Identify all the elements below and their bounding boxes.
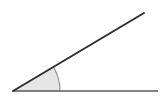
angle-diagram-figure: Acute angle formed by two rays [0, 0, 165, 102]
angle-diagram-svg [0, 0, 165, 102]
